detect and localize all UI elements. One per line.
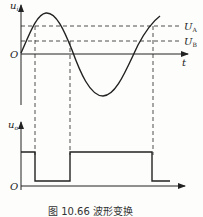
output-square-wave — [21, 152, 170, 181]
t-axis-label: t — [182, 57, 187, 68]
bottom-plot: uo O — [8, 119, 185, 192]
ua-label: UA — [184, 21, 197, 33]
uo-axis-label: uo — [8, 119, 18, 131]
waveform-diagram: ui O t UA UB uo O 图 10.66 波形变换 — [0, 0, 203, 217]
ui-axis-label: ui — [10, 0, 18, 12]
figure-caption: 图 10.66 波形变换 — [48, 205, 133, 217]
origin-label-top: O — [10, 49, 18, 60]
origin-label-bottom: O — [10, 181, 18, 192]
projection-lines — [35, 26, 153, 155]
top-plot: ui O t UA UB — [10, 0, 197, 105]
ub-label: UB — [184, 36, 197, 48]
